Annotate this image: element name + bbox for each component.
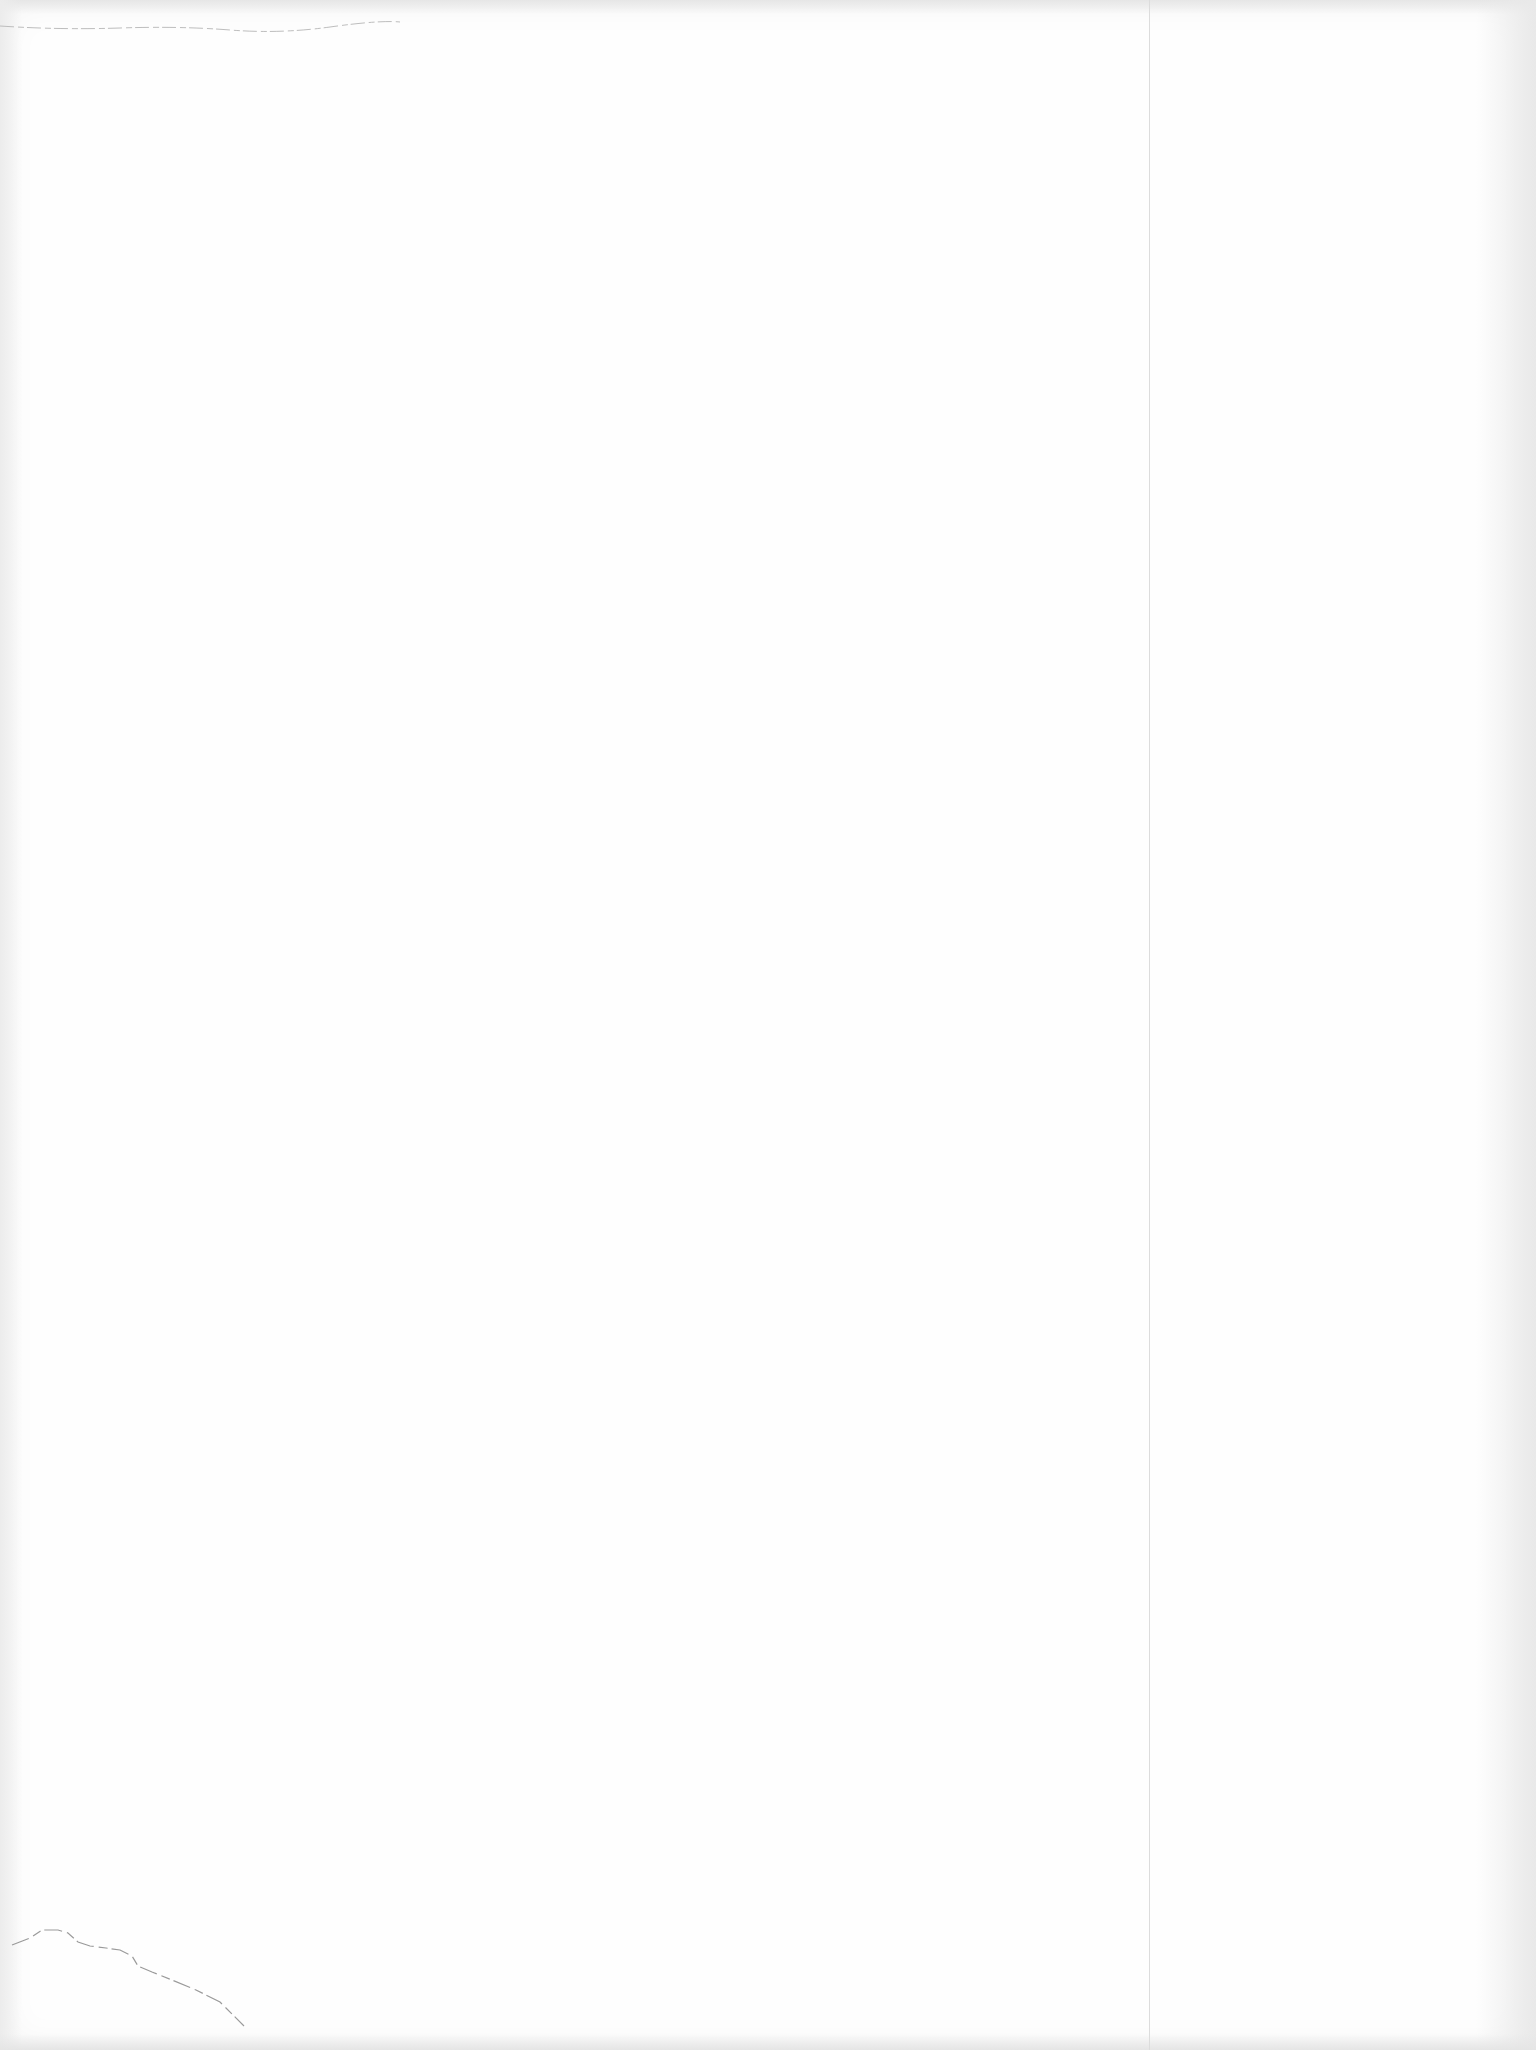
top-faint-line	[0, 0, 420, 40]
page-edge-right	[1476, 0, 1536, 2050]
blank-page	[0, 0, 1536, 2050]
page-edge-left	[0, 0, 22, 2050]
torn-corner-mark	[0, 1900, 280, 2050]
margin-fold-line	[1149, 0, 1150, 2050]
